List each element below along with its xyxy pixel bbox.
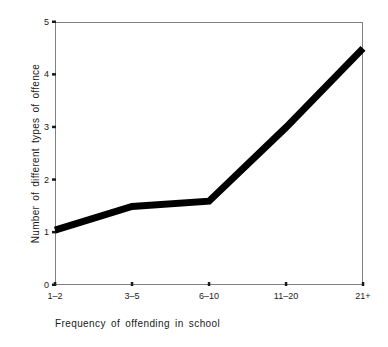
- x-axis-title: Frequency of offending in school: [55, 318, 220, 329]
- x-tick-label-1-2: 1–2: [25, 292, 85, 301]
- y-tick-label-5: 5: [27, 18, 49, 27]
- chart-figure: 5 4 3 2 1 0 1–2 3–5 6–10 11–20 21+ Frequ…: [0, 0, 388, 347]
- plot-area-frame: [55, 22, 363, 285]
- x-tick-label-21-plus: 21+: [333, 292, 388, 301]
- x-tick-label-3-5: 3–5: [102, 292, 162, 301]
- y-axis-title: Number of different types of offence: [30, 39, 41, 269]
- x-tick-label-6-10: 6–10: [179, 292, 239, 301]
- x-tick-label-11-20: 11–20: [256, 292, 316, 301]
- y-tick-label-0: 0: [27, 281, 49, 290]
